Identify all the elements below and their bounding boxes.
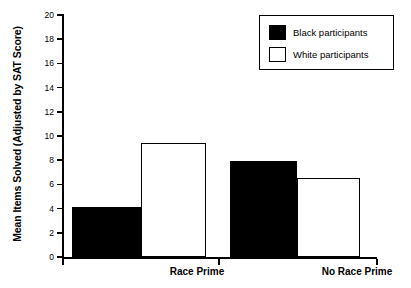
- y-axis-tick-label: 0: [49, 253, 54, 262]
- legend-swatch-black-icon: [269, 25, 286, 40]
- y-axis-tick: 14: [57, 87, 62, 89]
- y-axis-tick-label: 18: [45, 35, 54, 44]
- y-axis-tick-label: 6: [49, 180, 54, 189]
- y-axis-tick-label: 14: [45, 83, 54, 92]
- x-axis-category-label: Race Prime: [127, 266, 267, 277]
- y-axis-tick-label: 20: [45, 11, 54, 20]
- bar-white-participants-group-2: [297, 178, 360, 257]
- legend-swatch-white-icon: [269, 47, 286, 62]
- x-axis-tick: [62, 259, 64, 265]
- y-axis-title: Mean Items Solved (Adjusted by SAT Score…: [11, 22, 23, 247]
- y-axis-tick: 12: [57, 111, 62, 113]
- legend: Black participants White participants: [259, 15, 394, 70]
- bar-white-participants-group-1: [141, 143, 206, 257]
- y-axis-tick: 18: [57, 38, 62, 40]
- y-axis-tick-label: 4: [49, 204, 54, 213]
- legend-label-black-participants: Black participants: [293, 28, 367, 38]
- y-axis-tick: 4: [57, 208, 62, 210]
- bar-black-participants-group-1: [72, 207, 141, 257]
- y-axis-tick: 8: [57, 159, 62, 161]
- x-axis-category-label: No Race Prime: [287, 266, 411, 277]
- legend-item-black-participants: Black participants: [269, 23, 367, 42]
- legend-label-white-participants: White participants: [293, 50, 369, 60]
- y-axis-tick: 16: [57, 63, 62, 65]
- y-axis-tick: 2: [57, 232, 62, 234]
- y-axis-tick-label: 16: [45, 59, 54, 68]
- x-axis-tick: [218, 259, 220, 265]
- x-axis-tick: [376, 259, 378, 265]
- y-axis-tick-label: 2: [49, 229, 54, 238]
- y-axis-tick-label: 8: [49, 156, 54, 165]
- legend-item-white-participants: White participants: [269, 45, 369, 64]
- bar-chart-figure: Mean Items Solved (Adjusted by SAT Score…: [0, 0, 411, 288]
- y-axis-tick-label: 10: [45, 132, 54, 141]
- y-axis-title-container: Mean Items Solved (Adjusted by SAT Score…: [0, 0, 22, 288]
- y-axis-tick-label: 12: [45, 108, 54, 117]
- y-axis-tick: 6: [57, 184, 62, 186]
- y-axis-tick: 10: [57, 135, 62, 137]
- y-axis-tick: 20: [57, 14, 62, 16]
- x-axis-line: [62, 257, 377, 259]
- y-axis-tick: 0: [57, 256, 62, 258]
- y-axis-line: [62, 14, 64, 258]
- bar-black-participants-group-2: [230, 161, 297, 257]
